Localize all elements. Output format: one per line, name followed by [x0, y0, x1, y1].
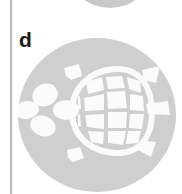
turtle-vertebral-scute-4	[108, 131, 126, 145]
turtle-specimen-illustration	[18, 38, 176, 192]
turtle-vertebral-scute-3	[108, 112, 127, 128]
panel-label: d	[19, 29, 32, 50]
figure-panel-d: d	[0, 0, 182, 194]
turtle-vertebral-scute-2	[107, 91, 127, 109]
panel-divider	[10, 0, 12, 194]
neighbor-panel-disc	[68, 0, 152, 8]
turtle-vertebral-scute-1	[106, 76, 125, 89]
turtle-costal-scute-6	[130, 94, 144, 111]
turtle-costal-scute-8	[126, 131, 141, 144]
turtle-lower-left-flipper-tip	[67, 147, 84, 162]
turtle-costal-scute-7	[129, 114, 144, 129]
turtle-marginal-scute-1	[78, 96, 81, 109]
turtle-costal-scute-3	[85, 114, 104, 129]
turtle-costal-scute-2	[84, 94, 104, 111]
turtle-upper-left-flipper-tip	[64, 64, 82, 80]
turtle-marginal-scute-2	[78, 114, 81, 127]
